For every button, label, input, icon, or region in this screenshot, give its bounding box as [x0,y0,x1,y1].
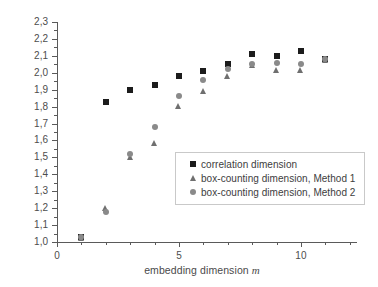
y-tick [52,56,57,57]
y-tick-label: 1,1 [18,219,48,230]
data-point [249,51,255,57]
y-tick-label: 2,1 [18,50,48,61]
y-tick [52,140,57,141]
y-tick-minor [54,98,57,99]
data-point [298,48,304,54]
x-tick-minor [203,242,204,245]
y-tick-label: 1,0 [18,236,48,247]
y-tick-minor [54,149,57,150]
legend-item-label: box-counting dimension, Method 1 [201,173,355,184]
x-tick-minor [325,242,326,245]
x-tick [301,242,302,247]
y-tick-minor [54,115,57,116]
data-point [151,140,157,146]
x-tick-minor [350,242,351,245]
x-tick-label: 10 [289,250,313,261]
x-tick-label: 5 [167,250,191,261]
y-tick [52,191,57,192]
y-tick-label: 1,7 [18,118,48,129]
data-point [274,53,280,59]
legend-item: box-counting dimension, Method 2 [176,185,364,199]
legend-item: box-counting dimension, Method 1 [176,171,364,185]
y-tick [52,22,57,23]
data-point [176,73,182,79]
data-point [225,66,231,72]
legend-item-label: correlation dimension [201,159,297,170]
y-tick [52,90,57,91]
y-tick-minor [54,81,57,82]
y-tick-label: 1,6 [18,134,48,145]
y-tick [52,39,57,40]
y-axis-line [57,22,58,242]
data-point [200,88,206,94]
data-point [273,67,279,73]
x-axis-title-symbol: m [252,264,260,276]
legend-marker-square-icon [185,161,201,167]
x-tick [57,242,58,247]
y-tick-minor [54,47,57,48]
y-tick-label: 1,3 [18,185,48,196]
plot-area: 1,01,11,21,31,41,51,61,71,81,92,02,12,22… [57,22,357,242]
x-tick-label: 0 [45,250,69,261]
y-tick-label: 1,5 [18,151,48,162]
data-point [127,87,133,93]
data-point [224,73,230,79]
y-tick-minor [54,30,57,31]
legend-item-label: box-counting dimension, Method 2 [201,187,355,198]
x-axis-title-text: embedding dimension [144,264,252,276]
y-tick-minor [54,200,57,201]
data-point [298,61,304,67]
legend-item: correlation dimension [176,157,364,171]
x-tick-minor [155,242,156,245]
chart-legend: correlation dimensionbox-counting dimens… [175,152,365,205]
y-tick-minor [54,183,57,184]
y-tick-minor [54,166,57,167]
y-tick-minor [54,234,57,235]
legend-marker-triangle-icon [185,175,201,181]
data-point [200,68,206,74]
chart-figure: dimensional estimate embedding dimension… [0,0,378,287]
data-point [152,124,158,130]
y-tick-label: 2,2 [18,33,48,44]
data-point [175,103,181,109]
y-tick-label: 2,0 [18,67,48,78]
data-point [200,77,206,83]
y-tick-label: 1,2 [18,202,48,213]
x-axis-title: embedding dimension m [57,264,347,276]
y-tick-label: 1,9 [18,84,48,95]
y-tick [52,225,57,226]
y-tick [52,174,57,175]
y-tick-label: 1,4 [18,168,48,179]
data-point [274,60,280,66]
y-tick [52,157,57,158]
y-tick [52,124,57,125]
data-point [103,99,109,105]
y-tick-label: 1,8 [18,101,48,112]
data-point [152,82,158,88]
x-tick-minor [252,242,253,245]
x-tick-minor [81,242,82,245]
y-tick-minor [54,64,57,65]
x-axis-line [57,242,357,243]
data-point [103,209,109,215]
data-point [297,67,303,73]
y-tick-minor [54,217,57,218]
y-tick-minor [54,132,57,133]
y-tick [52,73,57,74]
x-tick-minor [228,242,229,245]
x-tick-minor [106,242,107,245]
data-point [176,93,182,99]
x-tick-minor [277,242,278,245]
x-tick-minor [130,242,131,245]
x-tick [179,242,180,247]
y-tick-label: 2,3 [18,16,48,27]
y-tick [52,107,57,108]
legend-marker-circle-icon [185,189,201,195]
y-tick [52,208,57,209]
